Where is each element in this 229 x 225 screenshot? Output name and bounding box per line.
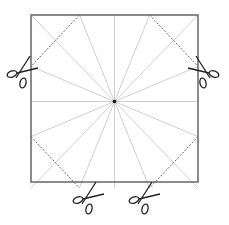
fold-ray	[115, 102, 199, 189]
diagram-canvas	[0, 0, 229, 225]
scissors-icon	[188, 56, 220, 89]
scissors-icon	[128, 182, 160, 215]
fold-ray	[31, 15, 115, 102]
folding-diagram	[0, 0, 229, 225]
scissors-group	[6, 56, 219, 215]
fold-ray	[31, 102, 115, 189]
center-point	[113, 100, 117, 104]
fold-ray	[115, 15, 199, 102]
scissors-icon	[72, 182, 104, 215]
scissors-icon	[6, 56, 38, 89]
